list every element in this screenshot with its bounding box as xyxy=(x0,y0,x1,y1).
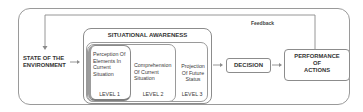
level-2-label: LEVEL 2 xyxy=(133,91,173,98)
level-1-label: LEVEL 1 xyxy=(88,91,131,98)
performance-line-1: PERFORMANCE xyxy=(285,53,349,60)
level-3-line: Projection xyxy=(178,63,208,70)
level-1-line: Situation xyxy=(93,71,131,78)
level-3-description: Projection Of Future Status xyxy=(178,63,208,83)
level-2-line: Comprehension xyxy=(134,62,176,69)
situational-awareness-title: SITUATIONAL AWARENESS xyxy=(83,32,212,38)
state-line-2: ENVIRONMENT xyxy=(23,62,66,69)
feedback-arrowhead-icon xyxy=(43,46,48,50)
level-3-label: LEVEL 3 xyxy=(177,91,207,98)
level-1-description: Perception Of Elements In Current Situat… xyxy=(93,51,131,77)
performance-of-actions-box: PERFORMANCE OF ACTIONS xyxy=(284,49,350,81)
level-2-line: Situation xyxy=(134,75,176,82)
level-1-line: Perception Of xyxy=(93,51,131,58)
performance-line-3: ACTIONS xyxy=(285,67,349,74)
level-2-description: Comprehension Of Current Situation xyxy=(134,62,176,82)
level-3-line: Status xyxy=(178,76,208,83)
performance-line-2: OF xyxy=(285,60,349,67)
state-line-1: STATE OF THE xyxy=(23,55,66,62)
state-of-environment: STATE OF THE ENVIRONMENT xyxy=(23,55,66,69)
feedback-label: Feedback xyxy=(251,20,274,26)
decision-box: DECISION xyxy=(226,58,271,73)
